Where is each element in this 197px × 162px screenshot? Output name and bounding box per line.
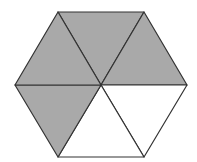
- hexagon-diagram: [0, 0, 197, 162]
